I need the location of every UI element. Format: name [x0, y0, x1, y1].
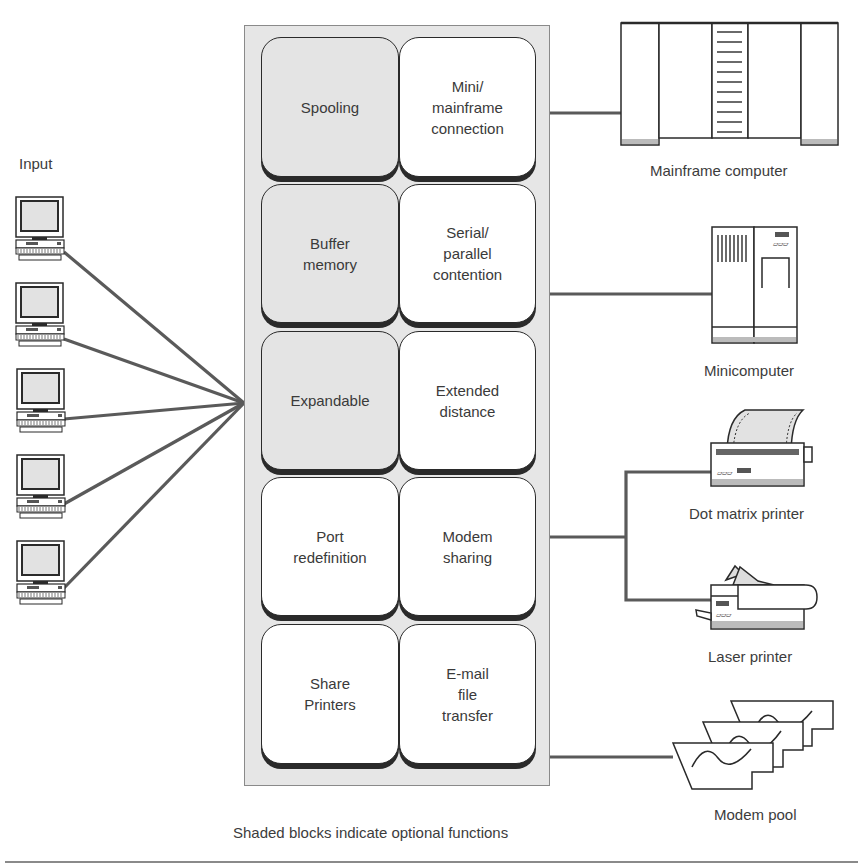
laser-printer-label: Laser printer [708, 648, 792, 665]
mainframe-icon [621, 23, 838, 145]
block-extended-distance: Extended distance [399, 331, 536, 470]
terminal-icon-2 [16, 283, 64, 346]
dot-matrix-printer-icon: ▱▱▱ [711, 410, 812, 486]
input-connectors [64, 252, 244, 588]
output-connectors [550, 113, 712, 757]
input-label: Input [19, 155, 52, 172]
modem-pool-icon [673, 701, 833, 789]
block-mainframe-connection: Mini/ mainframe connection [399, 37, 536, 177]
block-modem-sharing: Modem sharing [399, 477, 536, 616]
minicomputer-label: Minicomputer [704, 362, 794, 379]
block-buffer-memory: Buffer memory [261, 184, 399, 323]
terminal-icon-3 [17, 369, 65, 432]
block-serial-parallel-contention: Serial/ parallel contention [399, 184, 536, 323]
svg-text:▱▱▱: ▱▱▱ [717, 469, 733, 476]
minicomputer-icon: ▱▱▱ [712, 227, 797, 343]
terminal-icon-5 [17, 541, 65, 604]
block-expandable: Expandable [261, 331, 399, 470]
svg-text:▱▱▱: ▱▱▱ [716, 611, 732, 618]
block-email-file-transfer: E-mail file transfer [399, 624, 536, 764]
mainframe-label: Mainframe computer [650, 162, 788, 179]
caption: Shaded blocks indicate optional function… [233, 824, 508, 841]
bottom-rule [5, 861, 858, 863]
terminal-icon-4 [17, 455, 65, 518]
modem-pool-label: Modem pool [714, 806, 797, 823]
block-share-printers: Share Printers [261, 624, 399, 764]
block-port-redefinition: Port redefinition [261, 477, 399, 616]
dot-matrix-printer-label: Dot matrix printer [689, 505, 804, 522]
svg-text:▱▱▱: ▱▱▱ [773, 240, 789, 247]
terminal-icon-1 [16, 197, 64, 260]
laser-printer-icon: ▱▱▱ [696, 566, 817, 629]
block-spooling: Spooling [261, 37, 399, 177]
